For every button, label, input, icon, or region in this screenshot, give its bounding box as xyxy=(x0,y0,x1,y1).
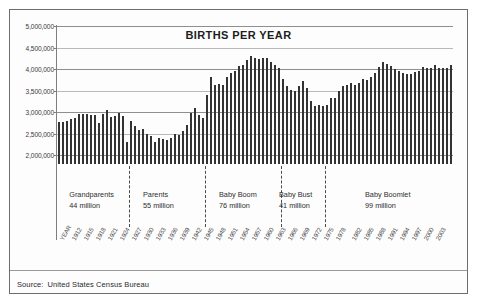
generation-name: Parents xyxy=(143,190,174,201)
bar xyxy=(198,115,200,164)
generation-population: 76 million xyxy=(219,201,257,212)
bar xyxy=(254,58,256,164)
bar xyxy=(362,79,364,164)
y-axis-labels: 5,000,0004,500,0004,000,0003,500,0003,00… xyxy=(10,10,54,270)
bar xyxy=(434,65,436,164)
x-axis-tick-label: 1945 xyxy=(202,226,215,241)
bar xyxy=(146,134,148,164)
x-axis-tick-label: 1939 xyxy=(178,226,191,241)
bar xyxy=(330,98,332,164)
generation-name: Grandparents xyxy=(69,190,114,201)
bar xyxy=(214,85,216,164)
x-axis-tick-label: 2003 xyxy=(434,226,447,241)
bar xyxy=(290,90,292,164)
bar xyxy=(282,79,284,164)
bar xyxy=(370,77,372,164)
x-axis-tick-label: 1997 xyxy=(410,226,423,241)
bar xyxy=(158,138,160,164)
bar xyxy=(106,110,108,164)
bar xyxy=(338,91,340,164)
bar xyxy=(94,115,96,165)
bar xyxy=(118,113,120,164)
bar xyxy=(410,74,412,164)
bar xyxy=(114,116,116,164)
bar xyxy=(310,101,312,164)
x-axis-tick-label: 1960 xyxy=(262,226,275,241)
bar xyxy=(178,135,180,164)
x-axis-tick-label: 1948 xyxy=(214,226,227,241)
bar xyxy=(350,83,352,164)
bar xyxy=(418,71,420,164)
x-axis-tick-label: 1982 xyxy=(350,226,363,241)
bar xyxy=(66,121,68,165)
generation-population: 99 million xyxy=(365,201,410,212)
bar xyxy=(154,142,156,164)
source-note: Source:United States Census Bureau xyxy=(17,280,149,289)
generation-population: 44 million xyxy=(69,201,114,212)
bar xyxy=(78,114,80,164)
bar xyxy=(342,86,344,164)
bar xyxy=(402,73,404,164)
bar xyxy=(58,122,60,164)
x-axis-tick-label: 1927 xyxy=(130,226,143,241)
source-value: United States Census Bureau xyxy=(48,280,150,289)
y-axis-tick-label: 5,000,000 xyxy=(26,23,54,30)
x-axis-tick-label: 1954 xyxy=(238,226,251,241)
bar xyxy=(166,140,168,164)
x-axis-labels: YEAR191219151918192119241927193019331936… xyxy=(10,238,467,278)
bar xyxy=(286,86,288,164)
x-axis-tick-label: 1936 xyxy=(166,226,179,241)
bar xyxy=(134,126,136,164)
bar xyxy=(222,85,224,164)
bar xyxy=(438,68,440,164)
x-axis-tick-label: 1988 xyxy=(374,226,387,241)
bar xyxy=(206,95,208,164)
x-axis-tick-label: 1957 xyxy=(250,226,263,241)
bar xyxy=(426,68,428,164)
bar xyxy=(270,62,272,164)
y-axis-tick-label: 2,500,000 xyxy=(26,130,54,137)
generation-population: 55 million xyxy=(143,201,174,212)
bar xyxy=(294,91,296,164)
generation-name: Baby Boom xyxy=(219,190,257,201)
x-axis-tick-label: 1921 xyxy=(106,226,119,241)
bar xyxy=(398,71,400,164)
bar xyxy=(226,77,228,164)
bar xyxy=(274,65,276,164)
bar xyxy=(242,65,244,164)
bar xyxy=(394,69,396,164)
bar xyxy=(98,123,100,164)
bar xyxy=(366,80,368,164)
bar xyxy=(62,122,64,164)
bar xyxy=(238,66,240,164)
bar xyxy=(174,134,176,164)
bar xyxy=(322,106,324,164)
bar xyxy=(86,114,88,164)
generation-divider xyxy=(325,166,326,227)
bar xyxy=(306,88,308,164)
x-axis-tick-label: 2000 xyxy=(422,226,435,241)
bar xyxy=(90,115,92,164)
generation-population: 41 million xyxy=(279,201,312,212)
bar xyxy=(314,106,316,164)
y-axis-tick-label: 2,000,000 xyxy=(26,152,54,159)
generation-label: Baby Boomlet99 million xyxy=(365,190,410,211)
bar xyxy=(250,56,252,164)
x-axis-tick-label: 1933 xyxy=(154,226,167,241)
bar xyxy=(230,73,232,164)
bar xyxy=(182,131,184,164)
bar xyxy=(334,98,336,164)
bar xyxy=(202,118,204,164)
source-divider xyxy=(10,270,467,271)
bar xyxy=(378,67,380,164)
generation-divider xyxy=(129,166,130,227)
x-axis-tick-label: 1985 xyxy=(362,226,375,241)
x-axis-tick-label: YEAR xyxy=(58,224,72,242)
bar xyxy=(186,125,188,164)
plot-area xyxy=(57,26,453,164)
bar xyxy=(258,59,260,164)
x-axis-tick-label: 1975 xyxy=(322,226,335,241)
bar xyxy=(358,83,360,164)
bar xyxy=(318,105,320,164)
y-axis-tick-label: 4,000,000 xyxy=(26,66,54,73)
